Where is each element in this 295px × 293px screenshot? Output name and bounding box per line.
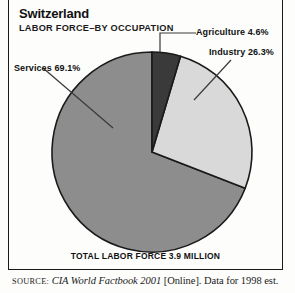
leader-line-agriculture xyxy=(160,33,196,52)
source-label: SOURCE: xyxy=(12,277,49,286)
total-labor-force-caption: TOTAL LABOR FORCE 3.9 MILLION xyxy=(8,251,283,261)
source-publication: CIA World Factbook 2001 xyxy=(52,275,161,286)
source-line: SOURCE: CIA World Factbook 2001 [Online]… xyxy=(12,275,295,286)
callout-label-agriculture: Agriculture 4.6% xyxy=(196,27,269,37)
callout-label-services: Services 69.1% xyxy=(14,63,80,73)
pie-chart xyxy=(8,0,283,270)
chart-page: Switzerland LABOR FORCE–BY OCCUPATION Ag… xyxy=(0,0,295,293)
source-rest: [Online]. Data for 1998 est. xyxy=(164,275,279,286)
callout-label-industry: Industry 26.3% xyxy=(209,47,274,57)
